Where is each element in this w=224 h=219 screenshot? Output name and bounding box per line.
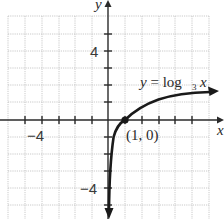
- x-axis-label: x: [216, 122, 224, 138]
- equation-base: 3: [192, 82, 197, 92]
- point-marker: [121, 116, 128, 123]
- x-tick-label-neg4: −4: [27, 127, 44, 144]
- curve-arrow-down-icon: [105, 208, 114, 219]
- point-label: (1, 0): [126, 127, 159, 144]
- graph-canvas: y x 4 −4 −4 (1, 0) y = log 3 x: [0, 0, 224, 219]
- x-axis: [0, 116, 219, 124]
- log-curve: [109, 92, 210, 212]
- svg-text:y = log: y = log: [138, 74, 182, 90]
- y-axis-label: y: [93, 0, 102, 12]
- equation-variable: x: [199, 74, 207, 90]
- equation-label: y = log 3 x: [138, 74, 207, 92]
- y-tick-label-neg4: −4: [80, 180, 97, 197]
- y-tick-label-4: 4: [90, 43, 98, 60]
- y-axis-arrow-icon: [105, 0, 112, 7]
- curve-arrow-right-icon: [208, 87, 219, 97]
